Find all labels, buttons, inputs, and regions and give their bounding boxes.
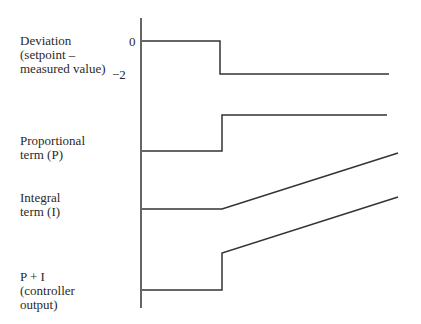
controller-response-diagram xyxy=(0,0,421,324)
integral-trace xyxy=(142,153,398,209)
proportional-trace xyxy=(142,115,387,151)
deviation-trace xyxy=(142,41,389,74)
pi-output-trace xyxy=(142,197,398,290)
